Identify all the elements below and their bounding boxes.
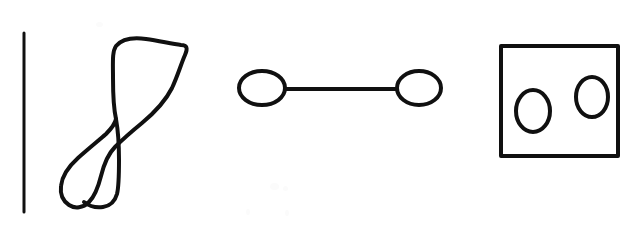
dumbbell-right-circle — [397, 71, 441, 105]
figure-eight-lower-tail — [84, 119, 119, 207]
drawing-canvas — [0, 0, 637, 230]
inner-oval-left — [516, 90, 550, 132]
dumbbell-shape — [239, 71, 441, 105]
dumbbell-left-circle — [239, 71, 285, 105]
figure-eight-loop — [61, 38, 187, 207]
inner-oval-right — [576, 77, 608, 117]
rectangle-with-two-ovals — [501, 46, 618, 156]
line-drawing-figure — [0, 0, 637, 230]
